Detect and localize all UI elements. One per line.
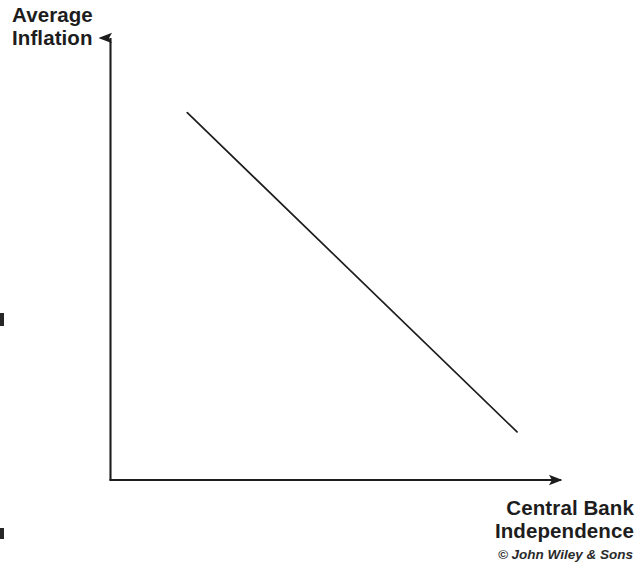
y-axis-label-line-2: Inflation [12,26,93,49]
y-axis-label-line-1: Average [12,3,93,26]
x-axis-label: Central Bank Independence [495,496,634,542]
page-edge-artifact-top [0,313,4,326]
x-axis-label-line-2: Independence [495,519,634,542]
figure-container: Average Inflation Central Bank Independe… [0,0,635,571]
chart-plot-area [0,0,635,571]
x-axis-label-line-1: Central Bank [506,496,634,519]
data-line-inflation-vs-independence [187,113,517,432]
copyright-credit: © John Wiley & Sons [498,546,633,563]
page-edge-artifact-bottom [0,528,4,539]
y-axis-label: Average Inflation [12,3,93,49]
